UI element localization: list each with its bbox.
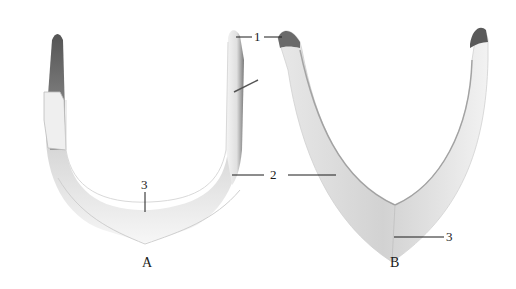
callout-3-b: 3 (446, 230, 453, 243)
panel-label-b: B (390, 256, 399, 270)
specimen-b (278, 28, 488, 262)
callout-1: 1 (254, 30, 261, 43)
callout-2: 2 (270, 168, 277, 181)
panel-label-a: A (142, 256, 152, 270)
anatomical-figure: 1 2 3 3 A B (0, 0, 516, 289)
specimen-a (44, 30, 258, 244)
callout-3-a: 3 (141, 178, 148, 191)
